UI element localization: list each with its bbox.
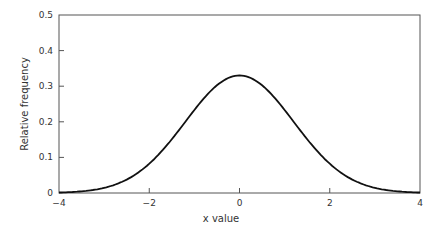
chart-svg: 00.10.20.30.40.5 −4−2024 x value Relativ…: [0, 0, 442, 233]
x-axis: −4−2024: [52, 188, 423, 208]
x-tick-label: 0: [237, 198, 243, 208]
y-tick-label: 0: [47, 188, 53, 198]
x-tick-label: −4: [52, 198, 66, 208]
x-tick-label: 4: [417, 198, 423, 208]
data-curve: [59, 76, 420, 193]
y-axis: 00.10.20.30.40.5: [39, 10, 64, 198]
y-tick-label: 0.1: [39, 152, 53, 162]
y-tick-label: 0.5: [39, 10, 53, 20]
y-tick-label: 0.4: [39, 46, 54, 56]
y-tick-label: 0.3: [39, 81, 53, 91]
y-tick-label: 0.2: [39, 117, 53, 127]
x-axis-label: x value: [203, 213, 239, 224]
plot-frame: [59, 15, 420, 193]
chart: 00.10.20.30.40.5 −4−2024 x value Relativ…: [0, 0, 442, 233]
x-tick-label: −2: [143, 198, 156, 208]
x-tick-label: 2: [327, 198, 333, 208]
y-axis-label: Relative frequency: [19, 57, 30, 151]
